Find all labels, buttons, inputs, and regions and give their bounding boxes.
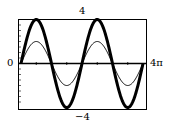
y-min-label: −4 xyxy=(75,112,90,122)
y-max-label: 4 xyxy=(79,6,85,16)
x-min-label: 0 xyxy=(7,58,13,68)
x-max-label: 4π xyxy=(150,58,163,68)
chart xyxy=(0,0,173,127)
